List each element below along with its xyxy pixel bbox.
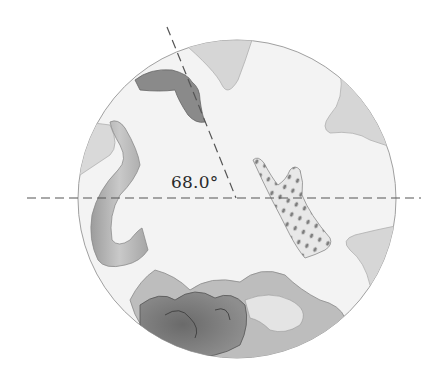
dryer-drum-diagram (0, 0, 442, 371)
angle-label: 68.0° (171, 172, 218, 192)
